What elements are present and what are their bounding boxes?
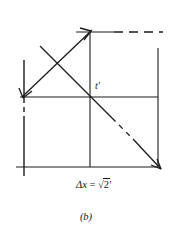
prime-mark: ' (110, 179, 112, 190)
x-variable: x (82, 179, 87, 190)
figure-caption: (b) (0, 211, 172, 222)
spacetime-diagram (0, 0, 172, 236)
descending-light-cone-upper (40, 46, 112, 118)
descending-light-cone-dashed (112, 118, 133, 139)
equals-sign: = (89, 179, 95, 190)
descending-light-cone-lower (133, 139, 161, 169)
top-vertex-arrowhead-icon (80, 28, 91, 40)
event-point-label: t' (95, 81, 100, 91)
minkowski-figure: t' Δx = √2' (b) (0, 0, 172, 236)
delta-x-annotation: Δx = √2' (76, 180, 111, 191)
